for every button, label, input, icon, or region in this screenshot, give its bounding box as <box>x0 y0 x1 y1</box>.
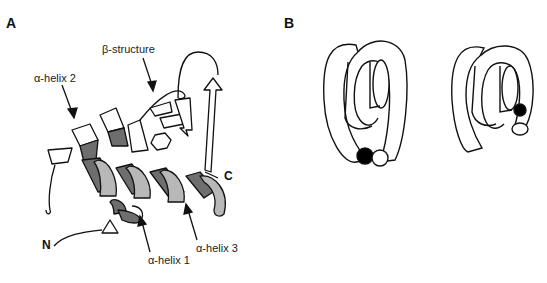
arrow-beta <box>143 58 152 85</box>
panel-b-label: B <box>284 15 294 31</box>
n-terminal-triangle <box>102 220 118 233</box>
arrowhead <box>184 204 192 214</box>
arrowhead <box>148 81 156 91</box>
ring-structure <box>151 133 171 150</box>
empty-ball <box>372 150 388 166</box>
label-beta-structure: β-structure <box>102 43 155 55</box>
loop <box>46 165 55 214</box>
helix2-segment <box>128 120 148 152</box>
arrow-helix3 <box>188 210 197 240</box>
arrowhead <box>68 108 77 118</box>
label-helix3: α-helix 3 <box>196 242 238 254</box>
tube-end-open <box>512 123 528 135</box>
figure: A B <box>0 0 547 283</box>
beta-strand <box>150 102 172 116</box>
filled-ball <box>357 148 373 164</box>
loop-segment <box>48 148 72 164</box>
label-c-terminus: C <box>224 169 233 183</box>
arrow-helix1 <box>142 222 150 252</box>
helix1-segment <box>118 210 140 223</box>
n-terminal-tail <box>54 230 102 246</box>
panel-a-label: A <box>6 15 16 31</box>
label-n-terminus: N <box>42 238 51 252</box>
tube-schematic-right <box>452 46 533 152</box>
helix2-segment <box>108 128 128 146</box>
tube-end-inner <box>502 66 518 110</box>
tube-outer <box>452 47 484 152</box>
label-helix1: α-helix 1 <box>148 254 190 266</box>
tube-schematic-left <box>324 41 407 166</box>
label-helix2: α-helix 2 <box>34 72 76 84</box>
filled-ball <box>514 104 526 116</box>
beta-strand-arrow <box>204 78 222 172</box>
tube-end-inner <box>373 60 389 108</box>
arrow-helix2 <box>62 85 72 112</box>
